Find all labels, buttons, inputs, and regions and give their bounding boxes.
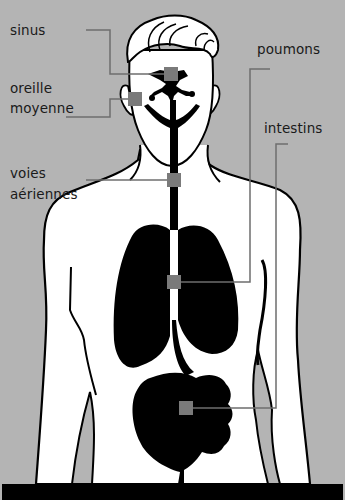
marker-oreille-moyenne bbox=[128, 92, 142, 106]
label-voies-line2: aériennes bbox=[10, 185, 78, 204]
marker-intestins bbox=[179, 401, 193, 415]
label-oreille-line2: moyenne bbox=[10, 99, 74, 118]
body-illustration bbox=[0, 0, 345, 500]
bottom-bar bbox=[2, 484, 343, 500]
marker-voies-aeriennes bbox=[167, 173, 181, 187]
label-intestins: intestins bbox=[264, 119, 322, 138]
label-oreille-line1: oreille bbox=[10, 79, 52, 98]
marker-poumons bbox=[167, 275, 181, 289]
label-sinus: sinus bbox=[10, 21, 45, 40]
anatomy-diagram: sinus oreille moyenne voies aériennes po… bbox=[0, 0, 345, 500]
leader-oreille bbox=[66, 99, 130, 117]
label-poumons: poumons bbox=[257, 40, 320, 59]
marker-sinus bbox=[164, 67, 178, 81]
label-voies-line1: voies bbox=[10, 164, 46, 183]
